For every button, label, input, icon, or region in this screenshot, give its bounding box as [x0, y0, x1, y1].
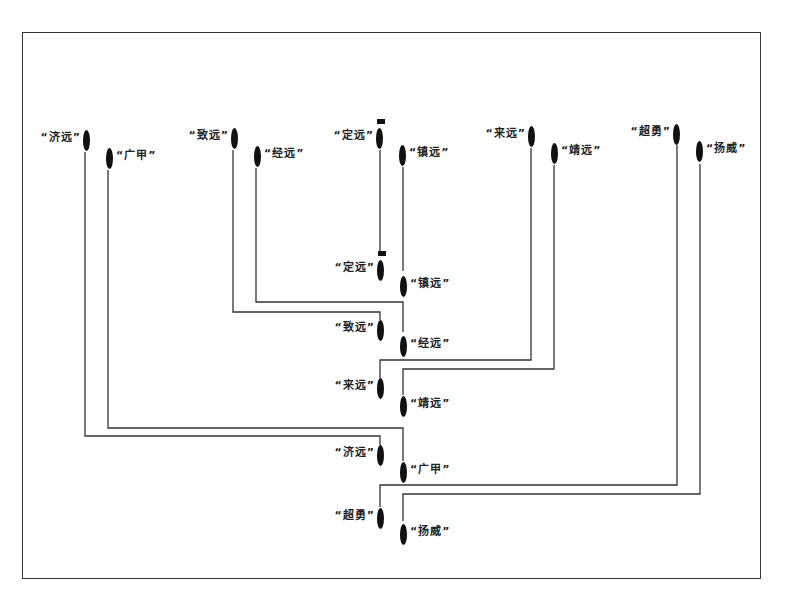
ship-icon: [106, 148, 113, 169]
ship-icon: [377, 320, 384, 341]
ship-icon: [400, 276, 407, 297]
ship-label: “经远”: [410, 337, 450, 351]
ship-label: “致远”: [189, 129, 229, 143]
ship-label: “扬威”: [706, 142, 746, 156]
ship-icon: [399, 145, 406, 166]
ship-label: “靖远”: [410, 397, 450, 411]
ship-icon: [400, 336, 407, 357]
flagship-flag-icon: [377, 119, 385, 124]
ship-label: “定远”: [335, 261, 375, 275]
ship-label: “来远”: [486, 127, 526, 141]
ship-icon: [377, 378, 384, 399]
ship-icon: [400, 524, 407, 545]
ship-icon: [377, 445, 384, 466]
ship-icon: [254, 146, 261, 167]
ship-icon: [696, 141, 703, 162]
ship-label: “靖远”: [561, 144, 601, 158]
ship-label: “来远”: [335, 379, 375, 393]
ship-icon: [551, 143, 558, 164]
ship-label: “致远”: [335, 321, 375, 335]
ship-label: “广甲”: [116, 149, 156, 163]
path-jingyuan_0-to-jingyuan_1: [256, 168, 403, 332]
ship-label: “镇远”: [410, 277, 450, 291]
ship-icon: [83, 130, 90, 151]
ship-label: “济远”: [41, 131, 81, 145]
ship-icon: [400, 462, 407, 483]
ship-icon: [400, 396, 407, 417]
ship-label: “济远”: [335, 446, 375, 460]
ship-label: “广甲”: [410, 463, 450, 477]
ship-label: “超勇”: [631, 125, 671, 139]
path-lines: [0, 0, 786, 596]
ship-label: “镇远”: [409, 146, 449, 160]
ship-icon: [376, 128, 383, 149]
ship-icon: [528, 126, 535, 147]
ship-label: “扬威”: [410, 525, 450, 539]
ship-icon: [231, 128, 238, 149]
ship-label: “定远”: [334, 129, 374, 143]
ship-label: “超勇”: [335, 509, 375, 523]
ship-icon: [377, 260, 384, 281]
flagship-flag-icon: [378, 251, 386, 256]
ship-icon: [673, 124, 680, 145]
ship-label: “经远”: [264, 147, 304, 161]
path-chaoyong_0-to-chaoyong_1: [380, 145, 677, 507]
path-zhiyuan_0-to-zhiyuan_1: [233, 150, 380, 320]
ship-icon: [377, 508, 384, 529]
